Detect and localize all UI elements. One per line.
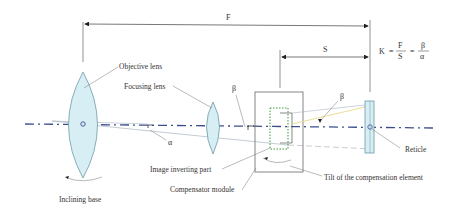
alpha-angle: α	[148, 125, 173, 147]
label-inclining-base: Inclining base	[59, 195, 102, 204]
label-image-inverting-part: Image inverting part	[150, 165, 212, 174]
label-objective-lens: Objective lens	[119, 62, 162, 71]
formula-k: K	[379, 47, 385, 56]
reticle	[365, 101, 374, 153]
objective-lens	[69, 72, 98, 178]
formula-s: S	[398, 52, 402, 61]
label-reticle: Reticle	[405, 145, 427, 154]
formula-f: F	[398, 41, 403, 50]
beta-left-angle: β	[232, 84, 254, 130]
compensator-module	[255, 92, 303, 172]
label-focusing-lens: Focusing lens	[124, 82, 166, 91]
formula: K = F S = β α	[379, 41, 429, 61]
beta-left-label: β	[232, 84, 236, 93]
label-compensator-module: Compensator module	[170, 185, 235, 194]
diagram-canvas: F S K = F S = β α α β	[0, 0, 459, 213]
beta-right-label: β	[340, 92, 344, 101]
formula-eq1: =	[389, 47, 394, 56]
label-tilt-element: Tilt of the compensation element	[324, 173, 424, 182]
dimension-s-label: S	[323, 45, 327, 54]
formula-beta: β	[421, 41, 425, 50]
alpha-label: α	[168, 138, 173, 147]
formula-eq2: =	[410, 47, 415, 56]
formula-alpha: α	[420, 52, 425, 61]
dimension-f-label: F	[226, 13, 231, 22]
dimension-s: S	[280, 45, 368, 88]
focusing-lens	[207, 102, 220, 154]
